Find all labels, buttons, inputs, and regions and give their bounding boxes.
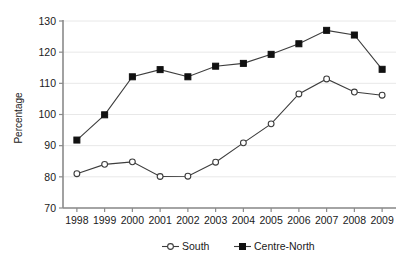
y-tick-label: 130: [38, 15, 56, 27]
y-tick-label: 120: [38, 46, 56, 58]
data-point-centre-north: [351, 32, 357, 38]
series-line-south: [77, 79, 382, 177]
x-axis-ticks-group: 1998199920002001200220032004200520062007…: [65, 208, 394, 226]
x-tick-label: 2008: [343, 214, 367, 226]
x-tick-label: 2005: [259, 214, 283, 226]
data-point-centre-north: [240, 60, 246, 66]
x-tick-label: 2007: [315, 214, 339, 226]
data-point-centre-north: [157, 67, 163, 73]
series-line-centre-north: [77, 30, 382, 140]
data-point-south: [185, 173, 191, 179]
data-point-centre-north: [213, 63, 219, 69]
data-point-centre-north: [268, 51, 274, 57]
data-point-centre-north: [296, 41, 302, 47]
y-axis-ticks-group: 708090100110120130: [38, 15, 63, 214]
x-tick-label: 2002: [176, 214, 200, 226]
data-point-south: [74, 171, 80, 177]
data-point-south: [379, 92, 385, 98]
gridlines-group: [63, 21, 396, 208]
data-point-centre-north: [324, 27, 330, 33]
y-tick-label: 100: [38, 108, 56, 120]
data-point-south: [129, 159, 135, 165]
x-tick-label: 1998: [65, 214, 89, 226]
y-axis-title: Percentage: [13, 92, 24, 144]
data-point-centre-north: [129, 74, 135, 80]
data-point-south: [213, 159, 219, 165]
data-point-south: [268, 121, 274, 127]
data-series-group: [74, 27, 385, 179]
data-point-south: [157, 174, 163, 180]
x-tick-label: 1999: [93, 214, 117, 226]
line-chart: 708090100110120130 199819992000200120022…: [0, 0, 409, 266]
data-point-centre-north: [185, 74, 191, 80]
x-tick-label: 2009: [370, 214, 394, 226]
x-tick-label: 2006: [287, 214, 311, 226]
data-point-south: [351, 89, 357, 95]
y-tick-label: 70: [44, 202, 56, 214]
data-point-south: [240, 140, 246, 146]
data-point-south: [296, 91, 302, 97]
legend-label: South: [182, 240, 210, 252]
x-tick-label: 2003: [204, 214, 228, 226]
data-point-centre-north: [102, 112, 108, 118]
y-tick-label: 80: [44, 171, 56, 183]
y-tick-label: 110: [39, 77, 56, 89]
legend-item-centre-north[interactable]: Centre-North: [234, 240, 315, 252]
data-point-centre-north: [74, 137, 80, 143]
legend-label: Centre-North: [254, 240, 315, 252]
chart-legend: SouthCentre-North: [162, 240, 315, 252]
x-tick-label: 2000: [121, 214, 145, 226]
data-point-centre-north: [379, 66, 385, 72]
legend-item-south[interactable]: South: [162, 240, 210, 252]
data-point-south: [324, 76, 330, 82]
x-tick-label: 2004: [232, 214, 256, 226]
x-tick-label: 2001: [148, 214, 172, 226]
legend-marker-open-circle-icon: [168, 244, 174, 250]
data-point-south: [102, 161, 108, 167]
y-tick-label: 90: [44, 139, 56, 151]
chart-canvas: 708090100110120130 199819992000200120022…: [0, 0, 409, 266]
legend-marker-filled-square-icon: [240, 244, 246, 250]
